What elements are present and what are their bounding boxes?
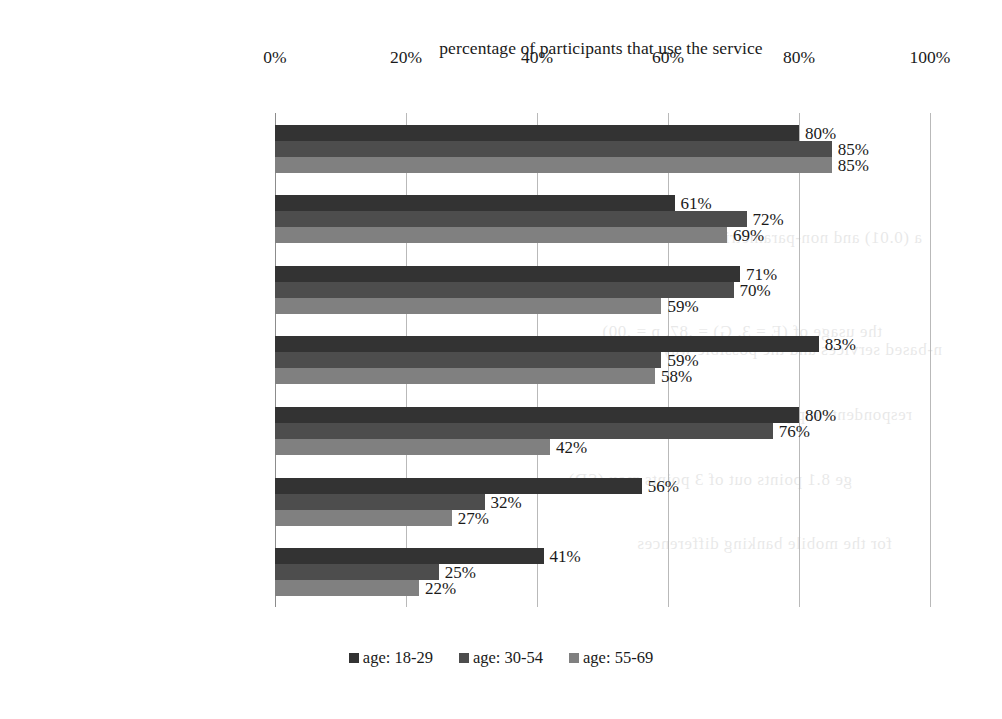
bar[interactable] — [275, 211, 747, 227]
x-tick-label: 40% — [521, 47, 553, 68]
bar-group: cloud services56%32%27% — [275, 478, 930, 526]
bar-value-label: 85% — [832, 156, 869, 173]
x-tick-label: 60% — [652, 47, 684, 68]
bar-value-label: 69% — [727, 227, 764, 244]
bar-row: 70% — [275, 282, 930, 298]
legend-item[interactable]: age: 55-69 — [569, 648, 653, 668]
legend-swatch-icon — [569, 653, 579, 663]
bar-row: 59% — [275, 298, 930, 314]
bar-row: 76% — [275, 423, 930, 439]
bar-row: 22% — [275, 580, 930, 596]
legend-item[interactable]: age: 30-54 — [459, 648, 543, 668]
bar[interactable] — [275, 352, 661, 368]
bar-row: 85% — [275, 157, 930, 173]
bar-value-label: 70% — [734, 281, 771, 298]
bar-row: 41% — [275, 548, 930, 564]
bar[interactable] — [275, 423, 773, 439]
bar-value-label: 42% — [550, 439, 587, 456]
bar[interactable] — [275, 157, 832, 173]
bar[interactable] — [275, 368, 655, 384]
bar-row: 58% — [275, 368, 930, 384]
bar[interactable] — [275, 580, 419, 596]
x-tick-label: 20% — [390, 47, 422, 68]
bar-row: 71% — [275, 266, 930, 282]
bar-row: 72% — [275, 211, 930, 227]
bar-value-label: 59% — [661, 297, 698, 314]
bar[interactable] — [275, 439, 550, 455]
x-tick-label: 0% — [263, 47, 286, 68]
bar-group: social networks83%59%58% — [275, 336, 930, 384]
bar[interactable] — [275, 336, 819, 352]
bar-row: 80% — [275, 125, 930, 141]
grouped-bar-chart: percentage of participants that use the … — [0, 0, 1002, 719]
bar-value-label: 80% — [799, 124, 836, 141]
bar[interactable] — [275, 227, 727, 243]
bar-row: 59% — [275, 352, 930, 368]
legend-label: age: 30-54 — [473, 648, 543, 668]
bar-group: chat80%76%42% — [275, 407, 930, 455]
bar-row: 61% — [275, 195, 930, 211]
plot-area: 0%20%40%60%80%100% e-commerce80%85%85%on… — [275, 113, 930, 607]
bar-row: 25% — [275, 564, 930, 580]
bar[interactable] — [275, 298, 661, 314]
bar-group: videochat41%25%22% — [275, 548, 930, 596]
bar-row: 69% — [275, 227, 930, 243]
bar-value-label: 41% — [544, 548, 581, 565]
chart-axis-title: percentage of participants that use the … — [0, 38, 1002, 59]
bar-row: 42% — [275, 439, 930, 455]
gridline-100 — [930, 113, 931, 607]
bar-row: 27% — [275, 510, 930, 526]
bar[interactable] — [275, 266, 740, 282]
bar-row: 83% — [275, 336, 930, 352]
bar-value-label: 32% — [485, 493, 522, 510]
bar-value-label: 61% — [675, 195, 712, 212]
x-tick-label: 100% — [910, 47, 951, 68]
bar-value-label: 58% — [655, 368, 692, 385]
bar[interactable] — [275, 141, 832, 157]
bar-row: 85% — [275, 141, 930, 157]
legend-item[interactable]: age: 18-29 — [349, 648, 433, 668]
bar-group: online banking61%72%69% — [275, 195, 930, 243]
bar[interactable] — [275, 125, 799, 141]
x-tick-label: 80% — [783, 47, 815, 68]
bar-group: e-commerce80%85%85% — [275, 125, 930, 173]
bar-row: 80% — [275, 407, 930, 423]
bar[interactable] — [275, 195, 675, 211]
bar[interactable] — [275, 478, 642, 494]
bar[interactable] — [275, 510, 452, 526]
bar-row: 32% — [275, 494, 930, 510]
bar-row: 56% — [275, 478, 930, 494]
bar[interactable] — [275, 548, 544, 564]
bar-value-label: 76% — [773, 423, 810, 440]
bar[interactable] — [275, 494, 485, 510]
bar-value-label: 56% — [642, 477, 679, 494]
legend-label: age: 55-69 — [583, 648, 653, 668]
bar[interactable] — [275, 407, 799, 423]
legend-swatch-icon — [459, 653, 469, 663]
bar[interactable] — [275, 282, 734, 298]
bar-value-label: 27% — [452, 509, 489, 526]
chart-legend: age: 18-29age: 30-54age: 55-69 — [0, 648, 1002, 668]
legend-label: age: 18-29 — [363, 648, 433, 668]
legend-swatch-icon — [349, 653, 359, 663]
bar-value-label: 22% — [419, 580, 456, 597]
chart-axis-title-text: percentage of participants that use the … — [439, 38, 762, 58]
bar-group: location-based services71%70%59% — [275, 266, 930, 314]
bar[interactable] — [275, 564, 439, 580]
bar-value-label: 83% — [819, 336, 856, 353]
